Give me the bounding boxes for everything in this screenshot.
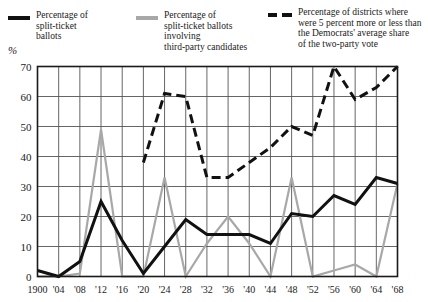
y-tick-label: 70 <box>21 61 33 73</box>
x-tick-label: '04 <box>53 284 65 295</box>
x-tick-label: '44 <box>265 284 277 295</box>
chart-figure: Percentage of split-ticket ballots Perce… <box>0 0 428 302</box>
plot-area: 010203040506070 1900'04'08'12'16'20'24'2… <box>0 0 428 302</box>
x-tick-label: '32 <box>201 284 213 295</box>
x-tick-label: '56 <box>328 284 340 295</box>
y-tick-label: 40 <box>21 151 33 163</box>
y-tick-label: 50 <box>21 121 33 133</box>
series-line-1 <box>38 130 398 277</box>
x-tick-label: '52 <box>307 284 319 295</box>
x-tick-label: '60 <box>349 284 361 295</box>
x-tick-labels: 1900'04'08'12'16'20'24'28'32'36'40'44'48… <box>28 284 404 295</box>
x-tick-label: '68 <box>392 284 404 295</box>
x-tick-label: '48 <box>286 284 298 295</box>
x-tick-label: '28 <box>180 284 192 295</box>
y-tick-label: 10 <box>21 241 33 253</box>
x-tick-label: '20 <box>137 284 149 295</box>
x-tick-label: '40 <box>243 284 255 295</box>
x-tick-label: '36 <box>222 284 234 295</box>
x-tick-label: 1900 <box>28 284 48 295</box>
y-tick-labels: 010203040506070 <box>21 61 33 283</box>
x-tick-label: '24 <box>159 284 171 295</box>
y-tick-label: 60 <box>21 91 33 103</box>
y-tick-label: 0 <box>26 271 32 283</box>
x-tick-label: '12 <box>95 284 107 295</box>
chart-svg: 010203040506070 1900'04'08'12'16'20'24'2… <box>0 0 428 302</box>
gridlines <box>38 67 398 277</box>
plot-frame <box>38 67 398 277</box>
y-tick-label: 30 <box>21 181 33 193</box>
x-tick-label: '64 <box>370 284 382 295</box>
y-tick-label: 20 <box>21 211 33 223</box>
x-tick-label: '08 <box>74 284 86 295</box>
data-series-layer <box>38 67 398 277</box>
x-tick-label: '16 <box>116 284 128 295</box>
